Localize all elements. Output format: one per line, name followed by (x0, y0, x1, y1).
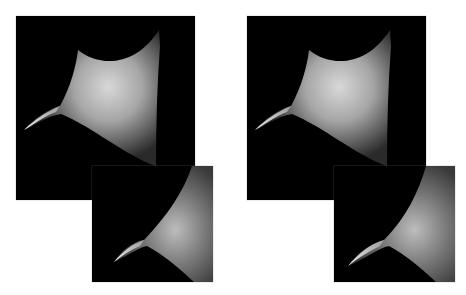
left-small-render (92, 166, 213, 282)
right-small-render (334, 166, 455, 282)
saddle-surface-closeup (92, 166, 213, 282)
saddle-surface-closeup (334, 166, 455, 282)
